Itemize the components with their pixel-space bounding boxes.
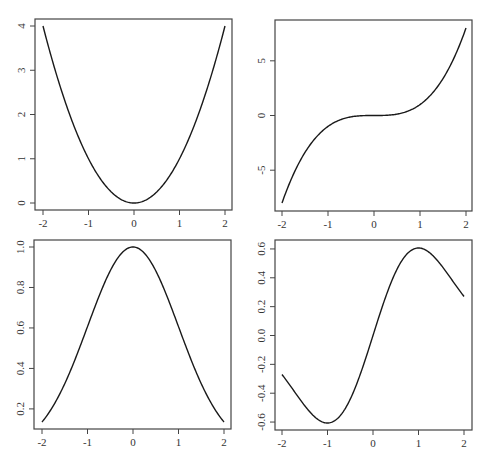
y-tick-label: 1.0 bbox=[14, 240, 26, 254]
x-tick-label: -1 bbox=[323, 218, 332, 230]
x-tick-label: 0 bbox=[131, 217, 137, 229]
plot-frame bbox=[34, 240, 231, 429]
y-tick-label: -0.4 bbox=[255, 384, 267, 402]
data-line bbox=[282, 248, 464, 423]
x-axis: -2-1012 bbox=[37, 429, 226, 448]
y-tick-label: 0.8 bbox=[14, 280, 26, 294]
y-tick-label: 2 bbox=[15, 112, 27, 118]
y-tick-label: 0.6 bbox=[14, 321, 26, 335]
y-tick-label: 5 bbox=[255, 58, 267, 64]
y-tick-label: 0.2 bbox=[14, 402, 26, 416]
x-tick-label: -1 bbox=[83, 436, 92, 448]
x-tick-label: -1 bbox=[84, 217, 93, 229]
figure-canvas: -2-101201234 -2-1012-505 -2-10120.20.40.… bbox=[0, 0, 489, 464]
y-axis: 0.20.40.60.81.0 bbox=[14, 240, 34, 416]
x-tick-label: 2 bbox=[222, 217, 228, 229]
data-line bbox=[43, 26, 225, 203]
x-tick-label: -2 bbox=[277, 437, 286, 449]
x-tick-label: 1 bbox=[177, 217, 183, 229]
x-tick-label: 2 bbox=[221, 436, 227, 448]
y-axis: 01234 bbox=[15, 23, 35, 206]
panel-gaussian-derivative: -2-1012-0.6-0.4-0.20.00.20.40.6 bbox=[255, 240, 472, 449]
x-tick-label: 1 bbox=[416, 437, 422, 449]
y-tick-label: -0.2 bbox=[255, 356, 267, 373]
y-tick-label: 4 bbox=[15, 23, 27, 29]
x-tick-label: -2 bbox=[37, 436, 46, 448]
x-tick-label: 0 bbox=[130, 436, 136, 448]
panel-x-squared: -2-101201234 bbox=[15, 19, 232, 229]
y-tick-label: 0.2 bbox=[255, 300, 267, 314]
x-axis: -2-1012 bbox=[38, 210, 227, 229]
y-tick-label: 1 bbox=[15, 156, 27, 162]
x-tick-label: 0 bbox=[371, 218, 377, 230]
y-tick-label: 0.6 bbox=[255, 242, 267, 256]
x-tick-label: 0 bbox=[370, 437, 376, 449]
x-tick-label: 1 bbox=[417, 218, 423, 230]
x-tick-label: -2 bbox=[38, 217, 47, 229]
x-tick-label: 1 bbox=[176, 436, 182, 448]
plot-frame bbox=[35, 19, 232, 210]
x-axis: -2-1012 bbox=[277, 211, 468, 230]
x-tick-label: 2 bbox=[463, 218, 469, 230]
y-tick-label: 0.4 bbox=[255, 270, 267, 284]
y-axis: -505 bbox=[255, 58, 275, 175]
y-axis: -0.6-0.4-0.20.00.20.40.6 bbox=[255, 242, 275, 431]
y-tick-label: 3 bbox=[15, 67, 27, 73]
data-line bbox=[282, 28, 466, 203]
data-line bbox=[42, 247, 224, 422]
y-tick-label: 0.0 bbox=[255, 328, 267, 342]
y-tick-label: 0 bbox=[15, 200, 27, 206]
y-tick-label: -5 bbox=[255, 165, 267, 175]
y-tick-label: 0.4 bbox=[14, 361, 26, 375]
y-tick-label: -0.6 bbox=[255, 413, 267, 431]
x-axis: -2-1012 bbox=[277, 430, 466, 449]
panel-gaussian: -2-10120.20.40.60.81.0 bbox=[14, 240, 231, 448]
x-tick-label: 2 bbox=[461, 437, 467, 449]
x-tick-label: -2 bbox=[277, 218, 286, 230]
y-tick-label: 0 bbox=[255, 112, 267, 118]
panel-x-cubed: -2-1012-505 bbox=[255, 20, 472, 230]
x-tick-label: -1 bbox=[323, 437, 332, 449]
